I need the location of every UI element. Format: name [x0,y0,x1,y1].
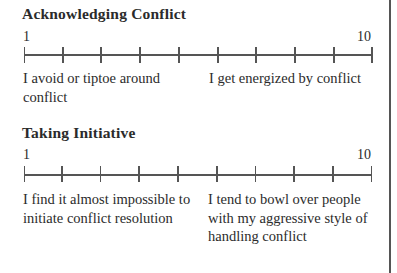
scale-tick-1[interactable] [24,47,26,63]
scale-tick-9[interactable] [333,47,335,63]
page-border [389,0,391,273]
section-heading: Acknowledging Conflict [22,5,186,23]
scale-tick-7[interactable] [255,47,257,63]
scale-line [24,54,372,56]
scale-tick-8[interactable] [294,47,296,63]
high-end-description: I get energized by conflict [209,69,384,88]
scale-tick-5[interactable] [177,166,179,182]
low-end-description: I find it almost impossible to initiate … [23,190,193,227]
high-end-description: I tend to bowl over people with my aggre… [208,190,386,246]
rating-scale-acknowledging-conflict: Acknowledging Conflict 1 10 I avoid or t… [0,0,389,120]
scale-tick-8[interactable] [293,166,295,182]
scale-tick-5[interactable] [178,47,180,63]
scale-min-label: 1 [23,29,30,45]
scale-tick-4[interactable] [139,47,141,63]
rating-scale-taking-initiative: Taking Initiative 1 10 I find it almost … [0,120,389,273]
scale-tick-10[interactable] [371,166,373,182]
scale-tick-2[interactable] [61,166,63,182]
scale-tick-4[interactable] [138,166,140,182]
scale-min-label: 1 [23,147,30,163]
scale-tick-9[interactable] [332,166,334,182]
low-end-description: I avoid or tiptoe around conflict [23,69,173,106]
scale-line [24,174,372,176]
scale-tick-3[interactable] [100,47,102,63]
scale-max-label: 10 [357,29,371,45]
scale-tick-6[interactable] [216,166,218,182]
scale-max-label: 10 [357,147,371,163]
scale-tick-3[interactable] [100,166,102,182]
section-heading: Taking Initiative [22,124,136,142]
scale-tick-10[interactable] [371,47,373,63]
scale-tick-2[interactable] [62,47,64,63]
scale-tick-6[interactable] [217,47,219,63]
scale-tick-1[interactable] [24,166,26,182]
scale-tick-7[interactable] [255,166,257,182]
